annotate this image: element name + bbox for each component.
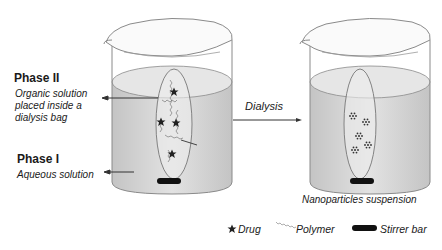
diagram-canvas	[0, 0, 442, 250]
phase2-desc-line1: Organic solution	[15, 88, 87, 100]
beaker-left	[104, 18, 232, 194]
phase2-desc-line2: placed inside a	[15, 100, 82, 112]
stirrer-bar-right	[350, 178, 374, 184]
phase1-title: Phase I	[17, 152, 59, 166]
result-caption: Nanoparticles suspension	[302, 194, 417, 205]
phase2-title: Phase II	[14, 71, 59, 85]
legend-drug-icon	[228, 225, 237, 234]
dialysis-label: Dialysis	[245, 100, 283, 112]
phase1-desc: Aqueous solution	[17, 169, 94, 181]
stirrer-bar-left	[157, 178, 181, 184]
legend-polymer-icon	[276, 222, 296, 228]
dialysis-arrow	[233, 118, 302, 122]
legend-stirrer-icon	[352, 225, 377, 231]
phase2-desc-line3: dialysis bag	[15, 112, 67, 124]
legend-drug-label: Drug	[238, 223, 261, 235]
beaker-right	[300, 18, 430, 194]
legend-stirrer-label: Stirrer bar	[380, 223, 427, 235]
dialysis-bag-right	[344, 69, 376, 179]
legend-polymer-label: Polymer	[296, 223, 335, 235]
